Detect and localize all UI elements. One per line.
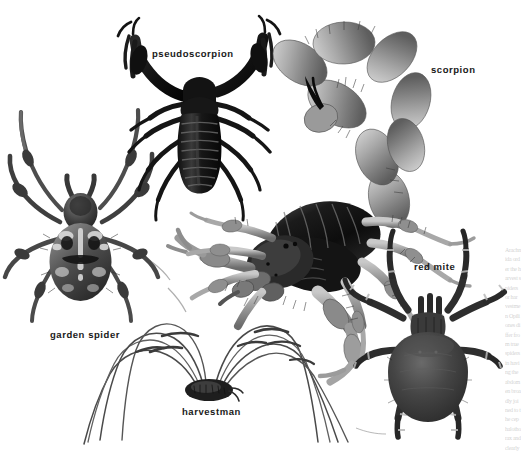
label-red-mite: red mite [414,263,455,273]
label-garden-spider: garden spider [50,331,120,341]
margin-text-fragment: Arachnida order the harvest spiders or h… [505,246,521,452]
illustration-plate: pseudoscorpion scorpion garden spider ha… [0,0,521,466]
label-scorpion: scorpion [431,66,476,76]
label-pseudoscorpion: pseudoscorpion [152,50,234,60]
label-harvestman: harvestman [182,408,241,418]
